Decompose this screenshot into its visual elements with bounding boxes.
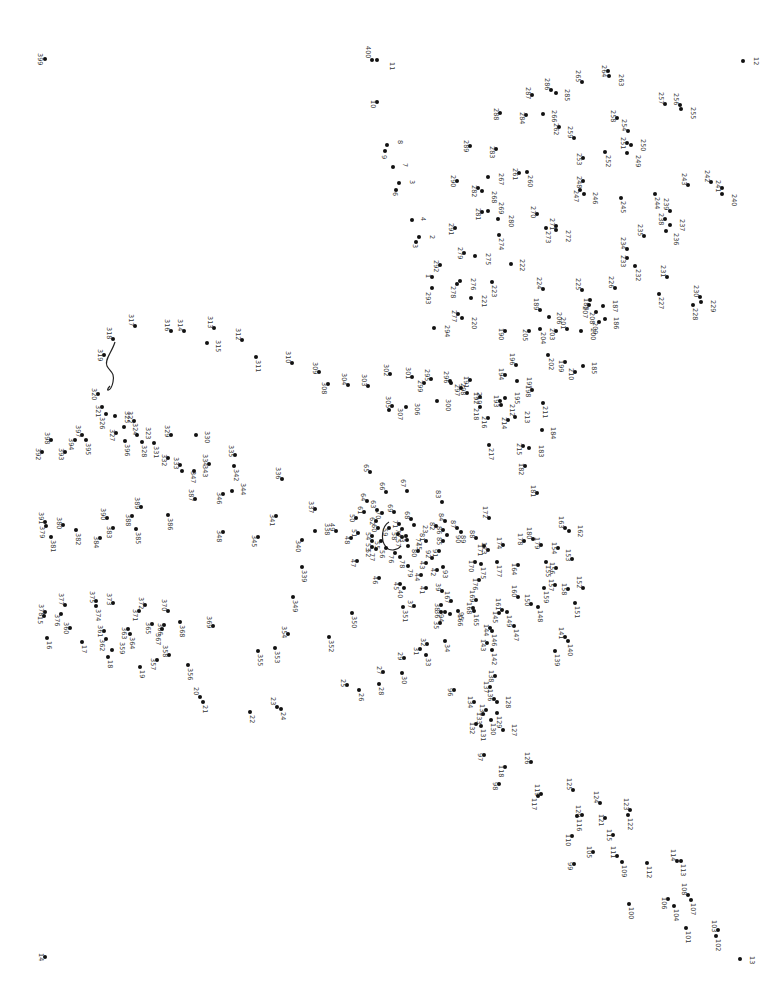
dot-number-label: 344	[240, 483, 247, 495]
dot-number-label: 63	[370, 500, 377, 508]
dot-number-label: 14	[38, 953, 45, 961]
dot-number-label: 34	[444, 644, 451, 652]
dot-number-label: 241	[715, 180, 722, 192]
dot-number-label: 331	[153, 446, 160, 458]
dot-number-label: 81	[419, 533, 426, 541]
puzzle-dot	[430, 286, 434, 290]
puzzle-dot	[230, 489, 234, 493]
dot-number-label: 390	[100, 508, 107, 520]
puzzle-dot	[391, 165, 395, 169]
puzzle-dot	[400, 671, 404, 675]
dot-number-label: 40	[397, 590, 404, 598]
dot-number-label: 346	[216, 492, 223, 504]
dot-number-label: 86	[436, 526, 443, 534]
dot-number-label: 172	[482, 506, 489, 518]
dot-number-label: 395	[85, 443, 92, 455]
dot-number-label: 156	[549, 562, 556, 574]
dot-number-label: 260	[527, 175, 534, 187]
dot-number-label: 226	[608, 276, 615, 288]
puzzle-dot	[122, 425, 126, 429]
dot-number-label: 183	[538, 445, 545, 457]
puzzle-dot	[525, 170, 529, 174]
dot-number-label: 216	[481, 416, 488, 428]
dot-number-label: 118	[498, 765, 505, 777]
dot-number-label: 102	[715, 939, 722, 951]
dot-number-label: 307	[397, 408, 404, 420]
dot-number-label: 11	[389, 62, 396, 70]
dot-number-label: 312	[235, 328, 242, 340]
annotation-layer	[0, 0, 775, 989]
dot-number-label: 329	[164, 425, 171, 437]
dot-number-label: 394	[68, 438, 75, 450]
puzzle-dot	[410, 218, 414, 222]
dot-number-label: 3	[412, 244, 419, 248]
puzzle-dot	[653, 192, 657, 196]
puzzle-dot	[501, 728, 505, 732]
puzzle-dot	[645, 861, 649, 865]
dot-number-label: 220	[471, 317, 478, 329]
dot-number-label: 292	[433, 260, 440, 272]
puzzle-dot	[313, 529, 317, 533]
puzzle-dot	[472, 609, 476, 613]
dot-number-label: 284	[519, 112, 526, 124]
dot-number-label: 222	[519, 259, 526, 271]
dot-number-label: 15	[37, 616, 44, 624]
dot-number-label: 362	[99, 639, 106, 651]
puzzle-dot	[582, 192, 586, 196]
dot-number-label: 189	[533, 298, 540, 310]
dot-number-label: 360	[63, 622, 70, 634]
dot-number-label: 229	[710, 300, 717, 312]
dot-number-label: 286	[544, 78, 551, 90]
dot-number-label: 150	[524, 594, 531, 606]
dot-number-label: 256	[673, 93, 680, 105]
puzzle-dot	[406, 544, 410, 548]
dot-number-label: 213	[524, 411, 531, 423]
dot-number-label: 364	[129, 637, 136, 649]
dot-number-label: 278	[450, 286, 457, 298]
dot-number-label: 93	[442, 570, 449, 578]
dot-number-label: 65	[363, 464, 370, 472]
puzzle-dot	[538, 327, 542, 331]
dot-number-label: 263	[618, 74, 625, 86]
dot-number-label: 368	[179, 625, 186, 637]
dot-number-label: 124	[593, 791, 600, 803]
dot-number-label: 22	[249, 715, 256, 723]
puzzle-dot	[357, 688, 361, 692]
dot-number-label: 204	[540, 332, 547, 344]
dot-number-label: 301	[405, 367, 412, 379]
dot-number-label: 13	[749, 956, 756, 964]
dot-number-label: 245	[620, 201, 627, 213]
dot-number-label: 322	[127, 411, 134, 423]
dot-number-label: 381	[50, 540, 57, 552]
puzzle-dot	[178, 620, 182, 624]
dot-number-label: 106	[661, 897, 668, 909]
dot-number-label: 352	[328, 640, 335, 652]
puzzle-dot	[377, 682, 381, 686]
puzzle-dot	[573, 601, 577, 605]
dot-number-label: 147	[513, 629, 520, 641]
dot-number-label: 17	[81, 645, 88, 653]
dot-number-label: 317	[128, 314, 135, 326]
puzzle-dot	[445, 533, 449, 537]
dot-number-label: 92	[425, 550, 432, 558]
dot-number-label: 195	[514, 392, 521, 404]
dot-number-label: 251	[620, 137, 627, 149]
dot-number-label: 370	[161, 599, 168, 611]
dot-number-label: 252	[605, 155, 612, 167]
puzzle-dot	[540, 428, 544, 432]
puzzle-dot	[607, 74, 611, 78]
puzzle-dot	[668, 223, 672, 227]
dot-number-label: 290	[450, 175, 457, 187]
dot-number-label: 400	[365, 46, 372, 58]
dot-number-label: 234	[620, 237, 627, 249]
puzzle-dot	[536, 605, 540, 609]
dot-number-label: 78	[399, 560, 406, 568]
puzzle-dot	[432, 326, 436, 330]
dot-number-label: 50	[349, 514, 356, 522]
puzzle-dot	[398, 555, 402, 559]
dot-number-label: 127	[511, 724, 518, 736]
dot-number-label: 180	[526, 527, 533, 539]
dot-number-label: 318	[106, 327, 113, 339]
dot-number-label: 19	[139, 670, 146, 678]
puzzle-dot	[554, 228, 558, 232]
